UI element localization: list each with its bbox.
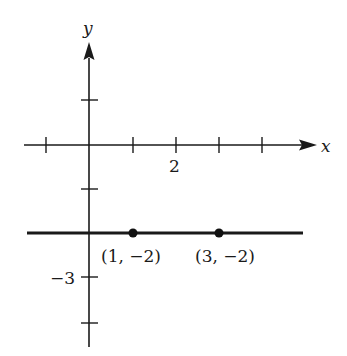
point-label-1: (1, −2)	[101, 246, 161, 266]
y-axis-label: y	[82, 18, 93, 38]
x-axis-label: x	[321, 136, 331, 156]
point-3-neg2	[215, 229, 224, 238]
point-1-neg2	[129, 229, 138, 238]
y-tick-label-neg3: −3	[50, 268, 75, 288]
graph-canvas: y x 2 −3 (1, −2) (3, −2)	[0, 0, 347, 356]
y-axis-arrow-icon	[84, 42, 95, 60]
point-label-2: (3, −2)	[195, 246, 255, 266]
x-tick-label-2: 2	[169, 156, 180, 176]
